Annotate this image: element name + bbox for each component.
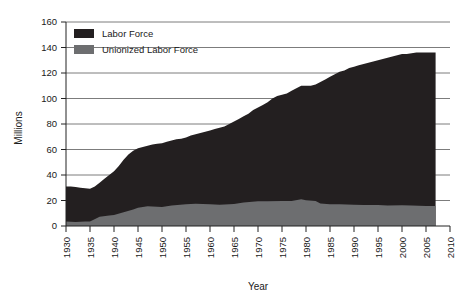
x-tick-label-1970: 1970 xyxy=(253,237,264,258)
y-tick-label-120: 120 xyxy=(41,67,57,78)
x-tick-label-1960: 1960 xyxy=(205,237,216,258)
x-tick-label-1930: 1930 xyxy=(61,237,72,258)
x-tick-label-1975: 1975 xyxy=(277,237,288,258)
labor-force-area-chart: 020406080100120140160 193019351940194519… xyxy=(0,0,469,296)
y-tick-label-100: 100 xyxy=(41,93,57,104)
x-tick-label-2000: 2000 xyxy=(397,237,408,258)
x-tick-label-1955: 1955 xyxy=(181,237,192,258)
x-tick-label-1985: 1985 xyxy=(325,237,336,258)
x-tick-label-1935: 1935 xyxy=(85,237,96,258)
x-tick-label-1965: 1965 xyxy=(229,237,240,258)
y-tick-label-60: 60 xyxy=(46,144,57,155)
legend-swatch-labor-force xyxy=(74,29,94,38)
legend-label-labor-force: Labor Force xyxy=(102,28,153,39)
y-tick-label-0: 0 xyxy=(52,220,57,231)
x-tick-label-2005: 2005 xyxy=(421,237,432,258)
x-tick-label-1980: 1980 xyxy=(301,237,312,258)
x-tick-label-1995: 1995 xyxy=(373,237,384,258)
legend-label-unionized-labor-force: Unionized Labor Force xyxy=(102,44,198,55)
y-axis-title: Millions xyxy=(13,111,24,144)
chart-container: 020406080100120140160 193019351940194519… xyxy=(0,0,469,296)
x-tick-label-1990: 1990 xyxy=(349,237,360,258)
y-tick-label-160: 160 xyxy=(41,16,57,27)
x-tick-label-1940: 1940 xyxy=(109,237,120,258)
y-tick-label-140: 140 xyxy=(41,42,57,53)
legend-swatch-unionized-labor-force xyxy=(74,45,94,54)
y-tick-label-80: 80 xyxy=(46,118,57,129)
x-tick-label-1950: 1950 xyxy=(157,237,168,258)
x-tick-label-2010: 2010 xyxy=(445,237,456,258)
x-tick-label-1945: 1945 xyxy=(133,237,144,258)
x-axis-title: Year xyxy=(248,281,269,292)
y-tick-label-40: 40 xyxy=(46,169,57,180)
y-tick-label-20: 20 xyxy=(46,195,57,206)
